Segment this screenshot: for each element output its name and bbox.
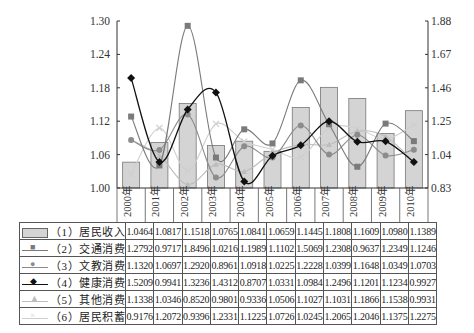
- table-cell: 1.0225: [267, 257, 295, 274]
- legend-cross-icon: ×: [22, 313, 48, 323]
- table-cell: 1.1648: [352, 257, 380, 274]
- category-label: 2008年: [347, 186, 359, 217]
- table-cell: 1.2046: [352, 308, 380, 325]
- legend-triangle-icon: ▲: [22, 296, 48, 306]
- data-table: （1）居民收入1.04641.08171.15181.07651.08411.0…: [19, 222, 437, 325]
- table-cell: 1.0464: [126, 223, 154, 240]
- table-cell: 1.1201: [352, 274, 380, 291]
- table-cell: 1.8496: [182, 240, 210, 257]
- table-cell: 0.9801: [210, 291, 238, 308]
- table-cell: 0.8707: [239, 274, 267, 291]
- table-cell: 0.9931: [408, 291, 436, 308]
- legend-label: ×（6）居民积蓄: [20, 308, 126, 325]
- bar: [207, 145, 224, 188]
- category-label: 2001年: [149, 186, 161, 217]
- table-cell: 1.2072: [154, 308, 182, 325]
- legend-label: ●（3）文教消费: [20, 257, 126, 274]
- table-row: ▲（5）其他消费1.13381.03460.85200.98010.93361.…: [20, 291, 437, 308]
- right-axis-tick: 1.25: [431, 115, 451, 127]
- table-cell: 1.1031: [324, 291, 352, 308]
- table-cell: 1.4312: [210, 274, 238, 291]
- table-cell: 1.1808: [324, 223, 352, 240]
- table-cell: 1.1246: [408, 240, 436, 257]
- table-cell: 1.2920: [182, 257, 210, 274]
- table-cell: 1.0349: [380, 257, 408, 274]
- table-cell: 1.0726: [267, 308, 295, 325]
- table-cell: 1.0703: [408, 257, 436, 274]
- category-label: 2000年: [121, 186, 133, 217]
- table-cell: 1.0331: [267, 274, 295, 291]
- circle-marker: [241, 143, 247, 149]
- table-cell: 1.0697: [154, 257, 182, 274]
- left-axis-tick: 1.12: [90, 115, 110, 127]
- table-cell: 1.2065: [324, 308, 352, 325]
- legend-label: ▲（5）其他消费: [20, 291, 126, 308]
- table-cell: 1.2331: [210, 308, 238, 325]
- table-cell: 1.0918: [239, 257, 267, 274]
- table-cell: 0.9717: [154, 240, 182, 257]
- table-row: ×（6）居民积蓄0.91761.20720.93961.23311.12251.…: [20, 308, 437, 325]
- table-cell: 1.0765: [210, 223, 238, 240]
- left-axis-tick: 1.00: [90, 182, 110, 194]
- cross-marker: [213, 121, 219, 127]
- square-marker: [185, 23, 191, 29]
- table-cell: 1.0984: [295, 274, 323, 291]
- category-label: 2010年: [404, 186, 416, 217]
- legend-circle-icon: ●: [22, 262, 48, 272]
- right-axis-tick: 1.67: [431, 48, 451, 60]
- square-marker: [270, 140, 276, 146]
- table-cell: 1.0216: [210, 240, 238, 257]
- circle-marker: [411, 147, 417, 153]
- circle-marker: [213, 174, 219, 180]
- table-cell: 1.0659: [267, 223, 295, 240]
- square-marker: [213, 155, 219, 161]
- legend-square-icon: ■: [22, 245, 48, 255]
- table-cell: 1.1375: [380, 308, 408, 325]
- table-cell: 1.5069: [295, 240, 323, 257]
- table-cell: 1.1609: [352, 223, 380, 240]
- circle-marker: [326, 152, 332, 158]
- legend-label: ◆（4）健康消费: [20, 274, 126, 291]
- left-axis-tick: 1.30: [90, 15, 110, 27]
- square-marker: [354, 164, 360, 170]
- category-labels: 2000年2001年2002年2003年2004年2005年2006年2007年…: [117, 186, 428, 222]
- legend-diamond-icon: ◆: [22, 279, 48, 289]
- table-cell: 1.1225: [239, 308, 267, 325]
- table-cell: 1.1445: [295, 223, 323, 240]
- table-cell: 1.1389: [408, 223, 436, 240]
- table-cell: 0.9637: [352, 240, 380, 257]
- table-row: ●（3）文教消费1.13201.06971.29200.89611.09181.…: [20, 257, 437, 274]
- table-cell: 1.3236: [182, 274, 210, 291]
- table-cell: 0.9176: [126, 308, 154, 325]
- category-label: 2004年: [234, 186, 246, 217]
- category-label: 2007年: [319, 186, 331, 217]
- category-label: 2005年: [263, 186, 275, 217]
- table-row: ■（2）交通消费1.27920.97171.84961.02161.19891.…: [20, 240, 437, 257]
- circle-marker: [156, 147, 162, 153]
- table-cell: 0.9396: [182, 308, 210, 325]
- table-cell: 1.0506: [267, 291, 295, 308]
- circle-marker: [128, 137, 134, 143]
- table-cell: 1.2275: [408, 308, 436, 325]
- circle-marker: [298, 123, 304, 129]
- category-label: 2009年: [376, 186, 388, 217]
- legend-undefined-icon: [22, 228, 48, 238]
- circle-marker: [354, 132, 360, 138]
- square-marker: [383, 121, 389, 127]
- right-axis-tick: 1.46: [431, 82, 451, 94]
- table-cell: 1.0399: [324, 257, 352, 274]
- table-cell: 0.9336: [239, 291, 267, 308]
- right-axis-tick: 1.04: [431, 149, 451, 161]
- table-cell: 1.1102: [267, 240, 295, 257]
- table-cell: 0.8961: [210, 257, 238, 274]
- left-axis-tick: 1.24: [90, 48, 110, 60]
- bar: [321, 87, 338, 188]
- table-cell: 1.2496: [324, 274, 352, 291]
- table-cell: 0.9927: [408, 274, 436, 291]
- table-cell: 0.9941: [154, 274, 182, 291]
- left-axis-tick: 1.18: [90, 82, 110, 94]
- table-cell: 1.1338: [126, 291, 154, 308]
- bar: [123, 162, 140, 188]
- legend-label: ■（2）交通消费: [20, 240, 126, 257]
- table-cell: 1.0841: [239, 223, 267, 240]
